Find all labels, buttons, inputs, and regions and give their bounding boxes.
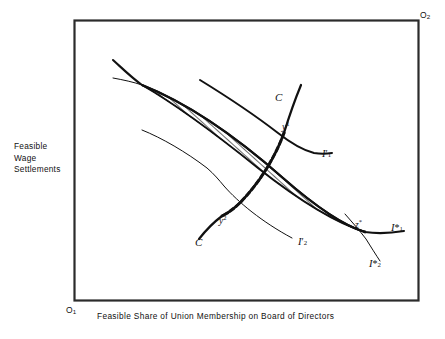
curve-label-i2-prime: I′2 [298, 236, 307, 247]
y-axis-label: Feasible Wage Settlements [14, 141, 76, 176]
i1-prime-sub: 1 [328, 151, 331, 158]
point-label-y1: y1 [282, 120, 289, 132]
origin-2-base: O [420, 10, 427, 20]
point-y2-superscript: 2 [223, 214, 226, 221]
origin-2-subscript: 2 [427, 13, 430, 20]
curve-label-i1-star: I*1 [391, 222, 403, 233]
curve-label-i1-prime: I′1 [322, 148, 331, 159]
point-zstar-marker [364, 231, 367, 234]
curve-label-i2-star: I*2 [369, 258, 381, 269]
point-zstar-superscript: * [359, 218, 362, 225]
x-axis-label: Feasible Share of Union Membership on Bo… [97, 311, 397, 323]
origin-1-subscript: 1 [73, 308, 76, 315]
origin-label-1: O1 [66, 305, 76, 315]
origin-label-2: O2 [420, 10, 430, 20]
edgeworth-box-figure: Feasible Wage Settlements Feasible Share… [0, 0, 445, 339]
origin-1-base: O [66, 305, 73, 315]
contract-curve-label-upper: C [275, 91, 282, 103]
point-y1-marker [283, 132, 286, 135]
point-label-zstar: z* [355, 218, 362, 230]
i1-star-sub: 1 [400, 225, 403, 232]
contract-curve-label-lower: C [195, 236, 202, 248]
box-frame [75, 21, 419, 301]
i2-prime-sub: 2 [304, 239, 307, 246]
i2-star-sub: 2 [378, 261, 381, 268]
point-y1-superscript: 1 [286, 120, 289, 127]
point-label-y2: y2 [219, 214, 226, 226]
